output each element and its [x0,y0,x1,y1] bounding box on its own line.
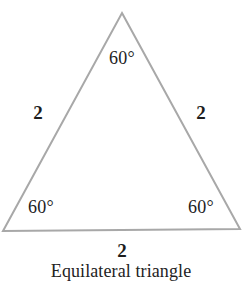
figure-caption: Equilateral triangle [0,261,242,282]
angle-label-bottom-right: 60° [188,198,214,216]
side-label-bottom: 2 [117,241,127,260]
side-label-left: 2 [33,103,43,122]
equilateral-triangle-figure: 60° 60° 60° 2 2 2 Equilateral triangle [0,0,242,282]
angle-label-apex: 60° [109,49,135,67]
side-label-right: 2 [196,103,206,122]
angle-label-bottom-left: 60° [28,198,54,216]
